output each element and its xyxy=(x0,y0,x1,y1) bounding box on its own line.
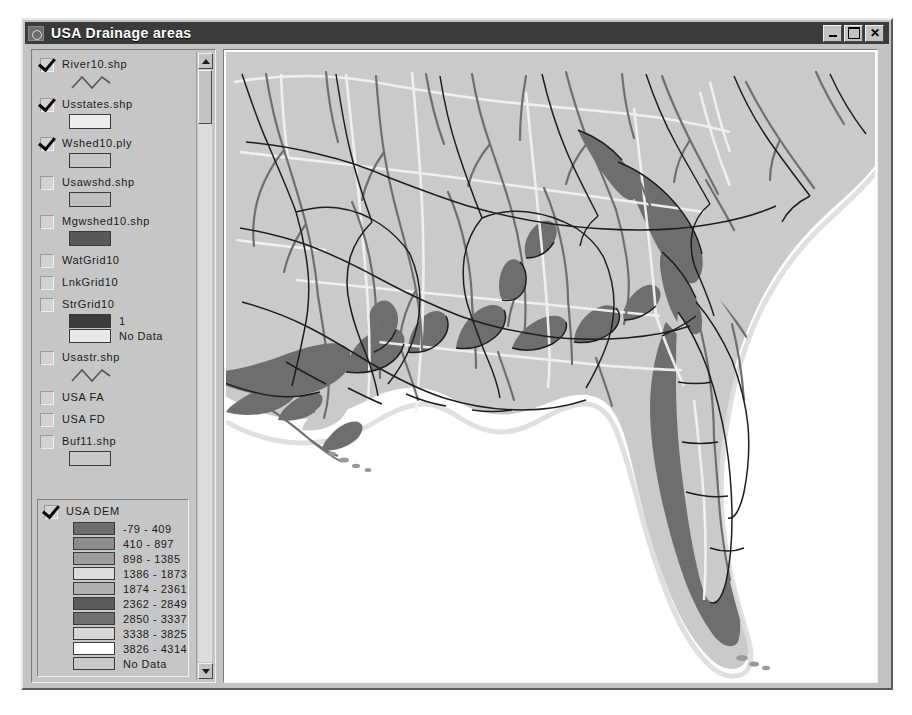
minimize-button[interactable] xyxy=(823,25,842,42)
layer-row[interactable]: Usastr.shp xyxy=(40,350,193,365)
layer-row[interactable]: USA FA xyxy=(40,390,193,405)
layer-class-row[interactable]: 1 xyxy=(69,314,193,328)
scrollbar-track[interactable] xyxy=(198,70,212,662)
dem-swatch xyxy=(73,627,115,640)
dem-legend-row[interactable]: 3338 - 3825 xyxy=(73,626,188,641)
layer-class-row[interactable]: No Data xyxy=(69,329,193,343)
layer-symbol-polygon[interactable] xyxy=(69,231,193,246)
layer-block: StrGrid101No Data xyxy=(40,297,193,343)
layer-row[interactable]: River10.shp xyxy=(40,57,193,72)
dem-legend-row[interactable]: 898 - 1385 xyxy=(73,551,188,566)
layer-symbol-line[interactable] xyxy=(69,74,113,90)
minimize-icon xyxy=(824,26,841,41)
dem-legend-row[interactable]: 2850 - 3337 xyxy=(73,611,188,626)
window-title: USA Drainage areas xyxy=(51,25,192,41)
screenshot-root: USA Drainage areas ✕ River10.shpUsstates… xyxy=(0,0,912,715)
scroll-up-arrow-icon[interactable] xyxy=(198,53,213,69)
layer-label: Wshed10.ply xyxy=(62,136,132,151)
scrollbar-thumb[interactable] xyxy=(198,70,212,124)
polygon-swatch xyxy=(69,114,111,129)
class-label: 1 xyxy=(119,315,126,327)
layer-checkbox[interactable] xyxy=(40,215,54,229)
layer-checkbox[interactable] xyxy=(40,351,54,365)
layer-label: LnkGrid10 xyxy=(62,275,118,290)
layer-block: Mgwshed10.shp xyxy=(40,214,193,246)
polygon-swatch xyxy=(69,153,111,168)
dem-legend-row[interactable]: 3826 - 4314 xyxy=(73,641,188,656)
layer-checkbox[interactable] xyxy=(40,58,54,72)
layer-row-usa-dem[interactable]: USA DEM xyxy=(44,504,188,519)
polygon-swatch xyxy=(69,231,111,246)
map-canvas[interactable] xyxy=(226,52,875,680)
dem-legend-row[interactable]: 1874 - 2361 xyxy=(73,581,188,596)
dem-class-label: 2850 - 3337 xyxy=(123,613,187,625)
layer-checkbox[interactable] xyxy=(40,435,54,449)
dem-legend-row[interactable]: 1386 - 1873 xyxy=(73,566,188,581)
layer-row[interactable]: WatGrid10 xyxy=(40,253,193,268)
map-view-panel[interactable] xyxy=(223,49,878,683)
dem-legend-row[interactable]: No Data xyxy=(73,656,188,671)
layer-symbol-polygon[interactable] xyxy=(69,451,193,466)
maximize-button[interactable] xyxy=(844,25,863,42)
class-swatch xyxy=(69,329,111,343)
layer-block: Usastr.shp xyxy=(40,350,193,383)
layer-checkbox[interactable] xyxy=(40,276,54,290)
layer-symbol-line[interactable] xyxy=(69,367,113,383)
layer-label: WatGrid10 xyxy=(62,253,120,268)
layer-row[interactable]: LnkGrid10 xyxy=(40,275,193,290)
layer-label: Buf11.shp xyxy=(62,434,116,449)
dem-swatch xyxy=(73,552,115,565)
scroll-down-arrow-icon[interactable] xyxy=(198,663,213,679)
dem-class-label: -79 - 409 xyxy=(123,523,172,535)
layer-checkbox[interactable] xyxy=(40,176,54,190)
layer-checkbox-usa-dem[interactable] xyxy=(44,505,58,519)
layer-row[interactable]: Usawshd.shp xyxy=(40,175,193,190)
class-swatch xyxy=(69,314,111,328)
layer-row[interactable]: Wshed10.ply xyxy=(40,136,193,151)
layer-row[interactable]: StrGrid10 xyxy=(40,297,193,312)
layer-row[interactable]: Usstates.shp xyxy=(40,97,193,112)
layer-label: Mgwshed10.shp xyxy=(62,214,150,229)
dem-class-label: 1874 - 2361 xyxy=(123,583,187,595)
dem-swatch xyxy=(73,537,115,550)
layer-block: WatGrid10 xyxy=(40,253,193,268)
layer-symbol-polygon[interactable] xyxy=(69,192,193,207)
layer-label: River10.shp xyxy=(62,57,127,72)
dem-class-label: 898 - 1385 xyxy=(123,553,181,565)
layer-block: USA FA xyxy=(40,390,193,405)
dem-swatch xyxy=(73,597,115,610)
dem-swatch xyxy=(73,642,115,655)
layer-checkbox[interactable] xyxy=(40,137,54,151)
layer-row[interactable]: USA FD xyxy=(40,412,193,427)
dem-class-label: 3338 - 3825 xyxy=(123,628,187,640)
layer-checkbox[interactable] xyxy=(40,98,54,112)
layer-label: Usastr.shp xyxy=(62,350,120,365)
layer-label-usa-dem: USA DEM xyxy=(66,504,120,519)
table-of-contents-inner: River10.shpUsstates.shpWshed10.plyUsawsh… xyxy=(33,51,214,681)
layer-row[interactable]: Buf11.shp xyxy=(40,434,193,449)
layer-block: Usawshd.shp xyxy=(40,175,193,207)
dem-class-label: 410 - 897 xyxy=(123,538,174,550)
layer-label: USA FD xyxy=(62,412,105,427)
dem-swatch xyxy=(73,582,115,595)
layer-checkbox[interactable] xyxy=(40,254,54,268)
close-button[interactable]: ✕ xyxy=(865,25,884,42)
layer-label: Usstates.shp xyxy=(62,97,133,112)
toc-scrollbar[interactable] xyxy=(196,52,213,680)
class-label: No Data xyxy=(119,330,163,342)
dem-legend-panel: USA DEM -79 - 409410 - 897898 - 13851386… xyxy=(37,499,189,677)
dem-legend-row[interactable]: -79 - 409 xyxy=(73,521,188,536)
layer-label: Usawshd.shp xyxy=(62,175,135,190)
window-controls: ✕ xyxy=(823,25,886,42)
close-icon: ✕ xyxy=(866,26,883,41)
layer-checkbox[interactable] xyxy=(40,298,54,312)
dem-legend-row[interactable]: 410 - 897 xyxy=(73,536,188,551)
application-window: USA Drainage areas ✕ River10.shpUsstates… xyxy=(21,18,893,690)
layer-symbol-polygon[interactable] xyxy=(69,153,193,168)
layer-row[interactable]: Mgwshed10.shp xyxy=(40,214,193,229)
layer-symbol-polygon[interactable] xyxy=(69,114,193,129)
layer-checkbox[interactable] xyxy=(40,391,54,405)
polygon-swatch xyxy=(69,192,111,207)
layer-checkbox[interactable] xyxy=(40,413,54,427)
dem-legend-row[interactable]: 2362 - 2849 xyxy=(73,596,188,611)
